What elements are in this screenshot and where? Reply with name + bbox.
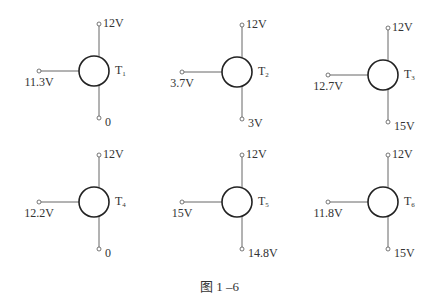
- transistor-subscript: 6: [411, 201, 415, 209]
- terminal-top: [97, 153, 101, 157]
- bottom-voltage-label: 14.8V: [248, 247, 278, 259]
- terminal-bottom: [386, 120, 390, 124]
- left-voltage-label: 12.7V: [313, 80, 343, 92]
- top-voltage-label: 12V: [392, 21, 413, 33]
- bottom-voltage-label: 0: [105, 116, 111, 128]
- terminal-top: [386, 26, 390, 30]
- transistor-body: [222, 187, 252, 217]
- bottom-voltage-label: 15V: [394, 120, 415, 132]
- terminal-left: [326, 73, 330, 77]
- transistor-body: [222, 57, 252, 87]
- terminal-top: [386, 153, 390, 157]
- terminal-left: [37, 200, 41, 204]
- transistor-subscript: 2: [265, 71, 269, 79]
- terminal-bottom: [240, 247, 244, 251]
- transistor-name-label: T2: [258, 65, 269, 81]
- transistor-T4: [37, 153, 109, 251]
- terminal-left: [326, 200, 330, 204]
- transistor-T6: [326, 153, 398, 251]
- terminal-left: [180, 200, 184, 204]
- top-voltage-label: 12V: [392, 148, 413, 160]
- transistor-subscript: 3: [411, 74, 415, 82]
- transistor-T1: [37, 22, 109, 120]
- terminal-bottom: [240, 117, 244, 121]
- terminal-top: [240, 23, 244, 27]
- figure-caption: 图 1 –6: [200, 276, 239, 295]
- transistor-body: [79, 187, 109, 217]
- top-voltage-label: 12V: [103, 17, 124, 29]
- transistor-subscript: 1: [122, 70, 126, 78]
- transistor-subscript: 4: [122, 201, 126, 209]
- terminal-bottom: [97, 116, 101, 120]
- terminal-left: [37, 69, 41, 73]
- terminal-top: [240, 153, 244, 157]
- transistor-diagram: [0, 0, 434, 300]
- transistor-body: [368, 187, 398, 217]
- bottom-voltage-label: 15V: [394, 247, 415, 259]
- terminal-bottom: [386, 247, 390, 251]
- terminal-left: [180, 70, 184, 74]
- top-voltage-label: 12V: [246, 148, 267, 160]
- top-voltage-label: 12V: [103, 148, 124, 160]
- bottom-voltage-label: 3V: [248, 117, 263, 129]
- transistor-name-label: T4: [115, 195, 126, 211]
- transistor-T5: [180, 153, 252, 251]
- transistor-subscript: 5: [265, 201, 269, 209]
- transistor-body: [79, 56, 109, 86]
- top-voltage-label: 12V: [246, 18, 267, 30]
- left-voltage-label: 12.2V: [24, 207, 54, 219]
- transistor-name-label: T3: [404, 68, 415, 84]
- transistor-body: [368, 60, 398, 90]
- transistor-T2: [180, 23, 252, 121]
- left-voltage-label: 3.7V: [170, 77, 194, 89]
- transistor-name-label: T5: [258, 195, 269, 211]
- bottom-voltage-label: 0: [105, 247, 111, 259]
- terminal-top: [97, 22, 101, 26]
- left-voltage-label: 15V: [172, 207, 193, 219]
- transistor-name-label: T1: [115, 64, 126, 80]
- left-voltage-label: 11.3V: [24, 76, 53, 88]
- transistor-T3: [326, 26, 398, 124]
- terminal-bottom: [97, 247, 101, 251]
- left-voltage-label: 11.8V: [313, 207, 342, 219]
- transistor-name-label: T6: [404, 195, 415, 211]
